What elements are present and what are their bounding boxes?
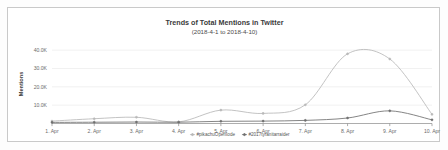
y-axis-tick-labels: 10.0K20.0K30.0K40.0K (34, 47, 48, 108)
screenshot-root: Trends of Total Mentions in Twitter (201… (0, 0, 448, 150)
legend-swatch-marker (191, 134, 193, 136)
gridlines (52, 50, 432, 105)
x-axis-tickmarks (52, 124, 432, 127)
series-data-point (389, 110, 391, 112)
chart-subtitle: (2018-4-1 to 2018-4-10) (192, 28, 258, 35)
y-axis-tick-label: 20.0K (34, 84, 48, 90)
legend-swatch-marker (243, 134, 245, 136)
series-data-point (135, 116, 137, 118)
y-axis-title: Mentions (18, 72, 24, 97)
x-axis-tick-labels: 1. Apr2. Apr3. Apr4. Apr5. Apr6. Apr7. A… (45, 128, 440, 134)
x-axis-tick-label: 4. Apr (172, 128, 186, 134)
series-data-point (304, 119, 306, 121)
series-data-point (347, 53, 349, 55)
series-layer (51, 49, 433, 123)
series-data-point (220, 120, 222, 122)
series-data-point (304, 104, 306, 106)
series-data-point (431, 119, 433, 121)
series-data-point (51, 121, 53, 123)
mentions-trend-chart: Trends of Total Mentions in Twitter (201… (8, 8, 441, 141)
series-data-point (431, 113, 433, 115)
legend-item[interactable]: #pikachuOpenIode (190, 132, 236, 137)
x-axis-tick-label: 8. Apr (341, 128, 355, 134)
series-data-point (93, 121, 95, 123)
series-data-point (178, 121, 180, 123)
y-axis-tick-label: 40.0K (34, 47, 48, 53)
legend-item[interactable]: #2017tyranitarraider (242, 132, 290, 137)
x-axis-tick-label: 2. Apr (88, 128, 102, 134)
x-axis-tick-label: 3. Apr (130, 128, 144, 134)
series-line (52, 111, 432, 123)
x-axis-tick-label: 7. Apr (299, 128, 313, 134)
series-data-point (262, 112, 264, 114)
x-axis-tick-label: 10. Apr (424, 128, 440, 134)
chart-legend: #pikachuOpenIode#2017tyranitarraider (190, 132, 290, 137)
legend-label: #2017tyranitarraider (248, 132, 290, 137)
chart-title: Trends of Total Mentions in Twitter (166, 18, 284, 27)
series-data-point (389, 58, 391, 60)
y-axis-tick-label: 30.0K (34, 65, 48, 71)
series-data-point (262, 120, 264, 122)
series-data-point (347, 117, 349, 119)
series-data-point (220, 109, 222, 111)
x-axis-tick-label: 1. Apr (45, 128, 59, 134)
x-axis-tick-label: 9. Apr (383, 128, 397, 134)
series-data-point (135, 121, 137, 123)
y-axis-tick-label: 10.0K (34, 102, 48, 108)
legend-label: #pikachuOpenIode (196, 132, 235, 137)
chart-card: Trends of Total Mentions in Twitter (201… (7, 7, 440, 142)
series-data-point (93, 118, 95, 120)
series-line (52, 49, 432, 122)
